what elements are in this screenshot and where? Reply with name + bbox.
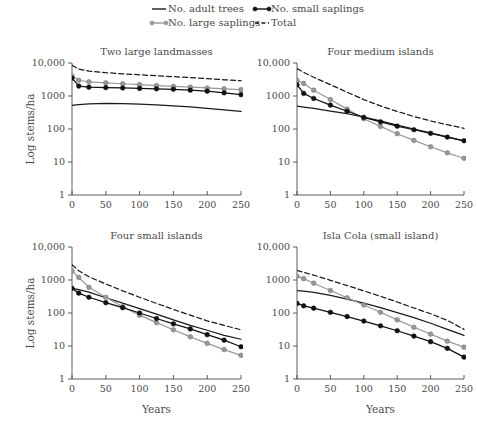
series-marker-dot: [205, 341, 210, 346]
legend-entry-label: No. adult trees: [168, 3, 244, 14]
series-marker-dot: [328, 288, 333, 293]
panel-title: Four medium islands: [327, 46, 433, 57]
series-marker-dot: [412, 138, 417, 143]
series-marker-dot: [87, 285, 92, 290]
x-tick-label: 250: [455, 199, 473, 210]
series-marker-dot: [328, 310, 333, 315]
x-tick-label: 0: [69, 383, 75, 394]
y-tick-label: 10: [53, 340, 65, 351]
series-marker-dot: [76, 84, 81, 89]
y-tick-label: 100: [47, 123, 65, 134]
x-axis-title: Years: [141, 403, 171, 415]
legend-marker-dot: [253, 7, 257, 11]
y-tick-label: 10,000: [32, 57, 65, 68]
figure-panel-grid: No. adult treesNo. large saplingsNo. sma…: [0, 0, 477, 428]
panel-title: Isla Cola (small island): [323, 230, 439, 241]
series-marker-dot: [445, 339, 450, 344]
series-marker-dot: [345, 109, 350, 114]
x-tick-label: 200: [422, 199, 440, 210]
x-axis-title: Years: [365, 403, 395, 415]
x-tick-label: 50: [100, 199, 112, 210]
series-group: [70, 65, 244, 111]
series-marker-dot: [171, 321, 176, 326]
series-marker-dot: [301, 276, 306, 281]
series-marker-dot: [137, 86, 142, 91]
series-marker-dot: [188, 327, 193, 332]
series-marker-dot: [301, 81, 306, 86]
series-marker-dot: [345, 295, 350, 300]
series-marker-dot: [70, 268, 75, 273]
series-marker-dot: [311, 281, 316, 286]
x-tick-label: 100: [355, 383, 373, 394]
series-marker-dot: [239, 344, 244, 349]
chart-panel-top-right: Four medium islands110100100010,00005010…: [257, 46, 473, 210]
x-tick-label: 200: [422, 383, 440, 394]
series-marker-dot: [205, 89, 210, 94]
x-tick-label: 0: [294, 199, 300, 210]
series-marker-dot: [103, 295, 108, 300]
series-group: [295, 69, 467, 161]
series-marker-dot: [154, 86, 159, 91]
legend-entry: No. adult trees: [152, 3, 244, 14]
series-marker-dot: [462, 345, 467, 350]
y-axis-title: Log stems/ha: [24, 93, 36, 164]
legend-marker-dot: [150, 21, 154, 25]
x-tick-label: 50: [100, 383, 112, 394]
legend-entry-label: Total: [271, 17, 296, 28]
series-marker-dot: [295, 301, 300, 306]
x-tick-label: 100: [355, 199, 373, 210]
panel-title: Four small islands: [110, 230, 202, 241]
series-marker-dot: [103, 300, 108, 305]
series-group: [70, 265, 244, 358]
series-marker-dot: [87, 295, 92, 300]
series-marker-dot: [445, 346, 450, 351]
y-tick-label: 100: [272, 123, 290, 134]
series-marker-dot: [311, 88, 316, 93]
series-marker-dot: [222, 90, 227, 95]
series-marker-dot: [301, 91, 306, 96]
series-line-total: [72, 65, 241, 80]
series-marker-dot: [361, 303, 366, 308]
legend-entry-label: No. small saplings: [271, 3, 364, 14]
series-marker-dot: [295, 274, 300, 279]
series-marker-dot: [311, 96, 316, 101]
series-marker-dot: [76, 78, 81, 83]
x-tick-label: 150: [164, 199, 182, 210]
series-line-no-large-saplings: [72, 271, 241, 356]
chart-panel-top-left: Two large landmasses110100100010,0000501…: [24, 46, 250, 210]
series-marker-dot: [328, 103, 333, 108]
series-marker-dot: [395, 131, 400, 136]
series-marker-dot: [70, 286, 75, 291]
series-marker-dot: [76, 275, 81, 280]
axis-spines: [72, 247, 241, 379]
series-marker-dot: [378, 310, 383, 315]
x-tick-label: 0: [294, 383, 300, 394]
chart-panel-bottom-left: Four small islands110100100010,000050100…: [24, 230, 250, 415]
x-tick-label: 100: [131, 383, 149, 394]
chart-panel-bottom-right: Isla Cola (small island)110100100010,000…: [257, 230, 473, 415]
series-marker-dot: [70, 76, 75, 81]
series-marker-dot: [154, 316, 159, 321]
legend-entry: Total: [255, 17, 296, 28]
x-tick-label: 250: [455, 383, 473, 394]
series-marker-dot: [87, 85, 92, 90]
x-tick-label: 250: [232, 383, 250, 394]
series-marker-dot: [395, 124, 400, 129]
x-tick-label: 200: [198, 383, 216, 394]
series-line-no-small-saplings: [297, 85, 464, 141]
series-marker-dot: [428, 339, 433, 344]
series-marker-dot: [361, 115, 366, 120]
series-group: [295, 270, 467, 359]
series-line-total: [297, 270, 464, 329]
series-marker-dot: [345, 314, 350, 319]
series-marker-dot: [171, 87, 176, 92]
series-marker-dot: [171, 327, 176, 332]
x-tick-label: 50: [324, 199, 336, 210]
legend-entry: No. large saplings: [150, 17, 260, 28]
x-tick-label: 150: [388, 199, 406, 210]
series-marker-dot: [311, 306, 316, 311]
series-marker-dot: [445, 150, 450, 155]
series-marker-dot: [205, 332, 210, 337]
panel-title: Two large landmasses: [100, 46, 212, 57]
y-tick-label: 10,000: [32, 241, 65, 252]
